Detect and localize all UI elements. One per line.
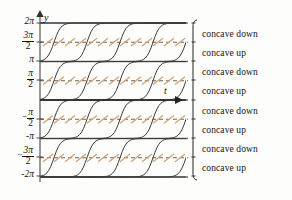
slope-mark — [65, 77, 75, 85]
y-axis-label: π2 — [27, 69, 34, 89]
band-brace — [192, 20, 198, 180]
solution-curve — [0, 62, 232, 101]
solution-curve — [0, 100, 232, 138]
solution-curve — [0, 139, 232, 178]
concavity-label: concave down — [202, 67, 258, 77]
solution-curve — [0, 139, 232, 178]
solution-curve — [0, 23, 232, 62]
y-axis-label: π — [29, 55, 34, 65]
solution-curve — [0, 101, 232, 139]
concavity-label: concave up — [202, 125, 246, 135]
y-axis-label: −3π2 — [17, 146, 34, 166]
concavity-label: concave down — [202, 106, 258, 116]
slope-mark — [43, 38, 53, 46]
slope-mark — [65, 115, 75, 123]
slope-mark — [164, 115, 174, 123]
solution-curve — [0, 62, 232, 101]
slope-mark — [164, 154, 174, 162]
solution-curve — [0, 23, 232, 62]
slope-mark — [43, 115, 53, 123]
solution-curve — [0, 100, 232, 139]
solution-curve — [0, 100, 232, 139]
concavity-label: concave down — [202, 144, 258, 154]
solution-curve — [0, 100, 232, 139]
solution-curve — [0, 23, 232, 62]
y-axis-name: y — [44, 12, 48, 23]
slope-mark — [120, 115, 130, 123]
solution-curve — [0, 100, 232, 139]
solution-curve — [0, 23, 232, 62]
slope-mark — [65, 38, 75, 46]
concavity-label: concave up — [202, 48, 246, 58]
slope-mark — [87, 154, 97, 162]
figure-root: 2π3π2ππ2−π2-π−3π2-2π concave downconcave… — [0, 0, 292, 200]
concavity-label: concave up — [202, 86, 246, 96]
slope-mark — [164, 77, 174, 85]
y-axis-label: -2π — [21, 170, 34, 180]
solution-curve — [0, 62, 232, 101]
solution-curve — [0, 23, 232, 62]
slope-mark — [142, 77, 152, 85]
solution-curve — [0, 139, 232, 178]
slope-mark — [43, 154, 53, 162]
solution-curve — [0, 139, 232, 177]
y-axis-label: 2π — [24, 17, 34, 27]
y-axis-label: 3π2 — [22, 31, 34, 51]
slope-mark — [164, 38, 174, 46]
y-axis-label: -π — [26, 132, 34, 142]
concavity-label: concave up — [202, 163, 246, 173]
solution-curve — [0, 139, 232, 178]
slope-mark — [120, 154, 130, 162]
solution-curve — [0, 62, 232, 101]
slope-mark — [142, 154, 152, 162]
slope-mark — [87, 115, 97, 123]
solution-curve — [0, 62, 232, 100]
slope-mark — [43, 77, 53, 85]
slope-mark — [65, 154, 75, 162]
solution-curve — [0, 24, 232, 62]
solution-curve — [0, 139, 232, 177]
concavity-label: concave down — [202, 29, 258, 39]
t-axis-name: t — [164, 85, 167, 96]
solution-curve — [0, 62, 232, 100]
slope-mark — [142, 115, 152, 123]
slope-mark — [142, 38, 152, 46]
y-axis-label: −π2 — [22, 108, 34, 128]
solution-curve — [0, 139, 232, 178]
solution-curve — [0, 62, 232, 101]
solution-curve — [0, 100, 232, 139]
solution-curve — [0, 23, 232, 61]
